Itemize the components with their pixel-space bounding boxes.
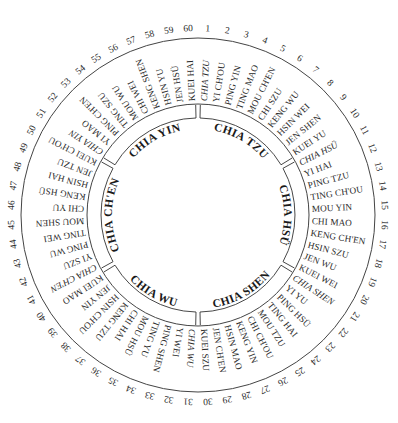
cycle-name: CHI MAO [312, 216, 353, 228]
cycle-name-group-start: CHIA WU [185, 329, 197, 369]
year-number: 57 [125, 34, 138, 47]
group-label: CHIA HSÜ [277, 183, 294, 248]
year-number: 30 [203, 396, 213, 406]
year-number: 17 [377, 239, 388, 250]
year-number: 56 [107, 42, 120, 55]
year-number: 6 [295, 53, 305, 64]
year-number: 19 [366, 276, 379, 289]
cycle-name: MOU SHEN [35, 216, 84, 229]
year-number: 41 [25, 293, 38, 306]
year-number: 33 [143, 389, 155, 401]
group-label-text: CHIA WU [128, 272, 179, 308]
outer-ring [21, 38, 375, 392]
sexagenary-cycle-diagram: 1234567891011121314151617181920212223242… [0, 0, 398, 423]
year-number: 52 [46, 90, 60, 104]
group-label: CHIA WU [128, 272, 179, 308]
year-number: 26 [276, 375, 289, 388]
year-number: 58 [144, 28, 156, 40]
year-number: 40 [34, 310, 48, 324]
year-number: 14 [377, 180, 388, 191]
year-number: 53 [59, 76, 73, 90]
inner-ring [87, 104, 309, 326]
year-number: 28 [240, 390, 252, 402]
year-number: 59 [163, 25, 174, 36]
year-number: 32 [163, 394, 174, 405]
year-number: 10 [348, 106, 362, 120]
group-label: CHIA TZU [213, 121, 271, 161]
year-number: 31 [183, 396, 193, 406]
year-number-labels: 1234567891011121314151617181920212223242… [6, 23, 390, 407]
year-number: 47 [8, 180, 19, 191]
year-number: 2 [224, 25, 231, 36]
year-number: 20 [358, 293, 371, 306]
cycle-name: JEN HSÜ [169, 65, 185, 104]
group-label: CHIA SHEN [211, 268, 272, 310]
cycle-name-group-start: CHIA TZU [199, 59, 211, 102]
year-number: 22 [336, 326, 350, 340]
year-number: 42 [17, 276, 30, 289]
year-number: 36 [89, 365, 103, 379]
year-number: 45 [6, 220, 16, 230]
year-number: 1 [205, 23, 211, 33]
group-label-text: CHIA SHEN [211, 268, 272, 310]
year-number: 9 [338, 92, 349, 102]
year-number: 5 [279, 43, 288, 54]
cycle-wheel: 1234567891011121314151617181920212223242… [0, 0, 398, 423]
year-number: 39 [46, 326, 60, 340]
year-number: 55 [89, 51, 103, 65]
year-number: 24 [309, 353, 323, 367]
year-number: 13 [373, 161, 385, 173]
year-number: 23 [323, 340, 337, 354]
year-number: 37 [73, 353, 87, 367]
cycle-name: MOU YIN [312, 202, 353, 214]
year-number: 34 [125, 383, 138, 396]
year-number: 7 [311, 64, 321, 75]
year-number: 25 [293, 365, 307, 379]
year-number: 50 [25, 123, 38, 136]
group-label-text: CHIA TZU [213, 121, 271, 161]
year-number: 35 [106, 375, 119, 388]
year-number: 43 [11, 257, 23, 269]
year-number: 38 [59, 340, 73, 354]
group-label-text: CHIA YIN [126, 121, 182, 160]
cycle-name: KUEI SZU [199, 329, 211, 372]
group-label-text: CHIA HSÜ [277, 183, 294, 248]
year-number: 27 [259, 383, 272, 396]
group-brackets [101, 105, 295, 325]
year-number: 3 [243, 29, 250, 40]
year-number: 16 [379, 220, 389, 230]
year-number: 18 [372, 258, 384, 270]
year-number: 48 [11, 160, 23, 172]
group-labels: CHIA TZUCHIA HSÜCHIA SHENCHIA WUCHIA CH'… [102, 121, 294, 310]
year-number: 49 [17, 142, 30, 155]
year-number: 15 [379, 200, 389, 210]
cycle-name: KUEI HAI [185, 60, 197, 102]
year-number: 54 [73, 63, 87, 77]
year-number: 4 [261, 35, 269, 46]
group-label: CHIA YIN [126, 121, 182, 160]
year-number: 60 [183, 23, 193, 33]
year-number: 12 [366, 142, 379, 155]
year-number: 11 [358, 124, 371, 137]
year-number: 21 [348, 310, 362, 324]
year-number: 8 [325, 78, 336, 89]
year-number: 29 [222, 394, 233, 405]
year-number: 46 [6, 200, 16, 210]
year-number: 51 [34, 106, 48, 120]
cycle-name: CHI YU [52, 202, 84, 214]
year-number: 44 [8, 239, 19, 250]
